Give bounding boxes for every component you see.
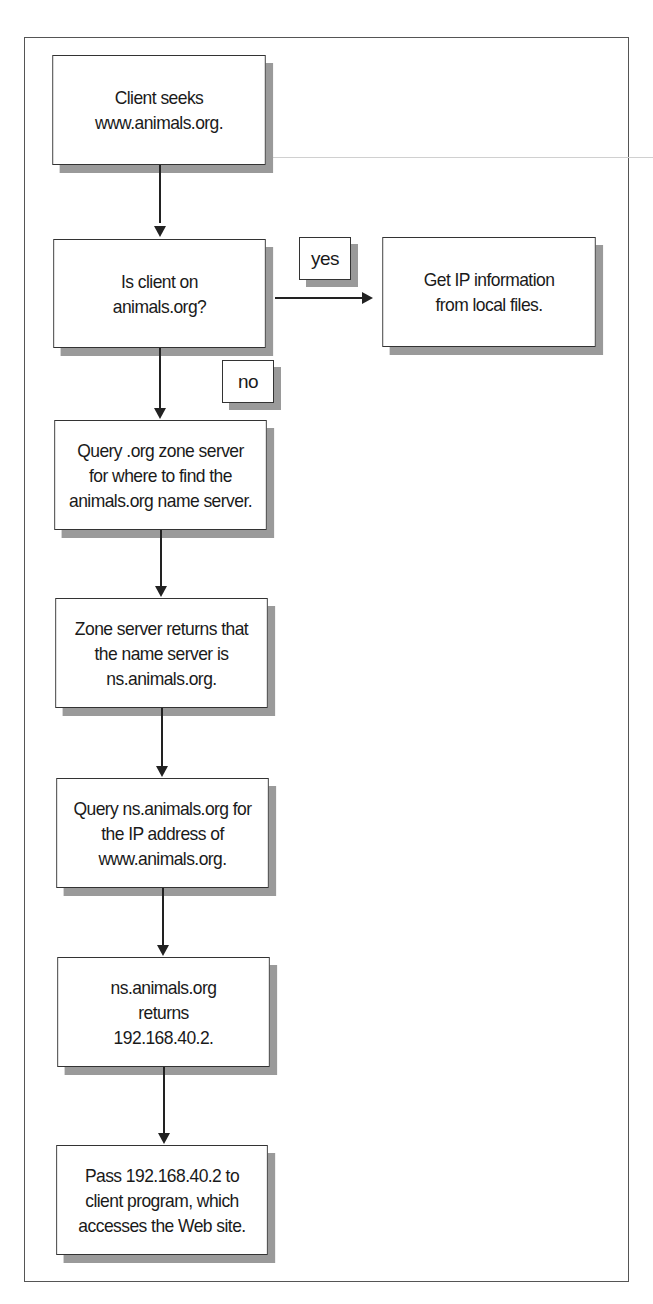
- arrow-down-icon: [157, 945, 169, 956]
- arrow-line: [160, 530, 162, 586]
- arrow-down-icon: [154, 408, 166, 419]
- node-text: ns.animals.org returns 192.168.40.2.: [111, 975, 217, 1050]
- node-text: Get IP information from local files.: [424, 267, 555, 317]
- arrow-line: [159, 165, 161, 223]
- arrow-line: [162, 888, 164, 945]
- arrow-line: [161, 708, 163, 766]
- edge-label-yes: yes: [299, 237, 351, 280]
- node-text: Zone server returns that the name server…: [75, 616, 248, 691]
- node-zone-returns: Zone server returns that the name server…: [55, 598, 268, 708]
- arrow-down-icon: [155, 586, 167, 597]
- arrow-right-icon: [362, 292, 373, 304]
- node-get-ip-local: Get IP information from local files.: [382, 237, 595, 347]
- node-client-seeks: Client seeks www.animals.org.: [52, 55, 265, 165]
- node-text: Query ns.animals.org for the IP address …: [73, 796, 251, 871]
- arrow-down-icon: [154, 226, 166, 237]
- edge-label-no: no: [222, 360, 274, 403]
- node-query-org-zone: Query .org zone server for where to find…: [54, 420, 267, 530]
- node-text: Pass 192.168.40.2 to client program, whi…: [78, 1163, 245, 1238]
- scan-artifact-line: [256, 157, 653, 158]
- arrow-line-yes: [275, 297, 363, 299]
- node-pass-to-client: Pass 192.168.40.2 to client program, whi…: [56, 1145, 268, 1255]
- node-is-client-on: Is client on animals.org?: [53, 239, 266, 348]
- node-text: Client seeks www.animals.org.: [95, 85, 223, 135]
- arrow-down-icon: [158, 1133, 170, 1144]
- node-query-ns: Query ns.animals.org for the IP address …: [56, 778, 269, 888]
- node-ns-returns: ns.animals.org returns 192.168.40.2.: [57, 957, 270, 1067]
- arrow-down-icon: [156, 766, 168, 777]
- node-text: Query .org zone server for where to find…: [69, 438, 252, 513]
- arrow-line: [163, 1067, 165, 1133]
- arrow-line-no: [159, 348, 161, 408]
- node-text: Is client on animals.org?: [113, 269, 206, 319]
